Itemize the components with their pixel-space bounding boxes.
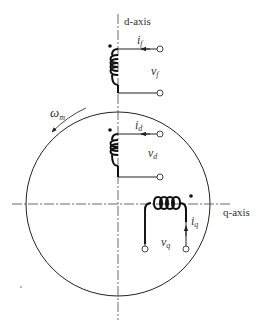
stray-dot — [20, 286, 22, 288]
d-coil-icon — [111, 134, 119, 166]
field-coil-icon — [111, 49, 119, 85]
q-winding: iq vq — [142, 194, 198, 252]
field-winding: if vf — [108, 33, 163, 96]
polarity-dot — [108, 44, 112, 48]
d-axis-label: d-axis — [124, 15, 151, 27]
polarity-dot — [189, 194, 193, 198]
q-voltage-label: vq — [161, 235, 170, 250]
d-terminal-bottom — [157, 174, 163, 180]
omega-label: ωm — [50, 105, 65, 122]
q-terminal-left — [142, 246, 148, 252]
field-current-label: if — [137, 33, 144, 48]
field-voltage-label: vf — [151, 64, 160, 79]
field-terminal-top — [157, 46, 163, 52]
q-axis-label: q-axis — [223, 206, 250, 218]
dq-machine-diagram: d-axis q-axis ωm if vf id vd — [0, 0, 266, 331]
d-current-label: id — [135, 118, 143, 133]
field-terminal-bottom — [157, 90, 163, 96]
q-terminal-right — [183, 246, 189, 252]
d-voltage-label: vd — [148, 146, 158, 161]
d-winding: id vd — [108, 118, 163, 180]
polarity-dot — [108, 128, 112, 132]
d-terminal-top — [157, 131, 163, 137]
q-current-label: iq — [191, 214, 198, 229]
